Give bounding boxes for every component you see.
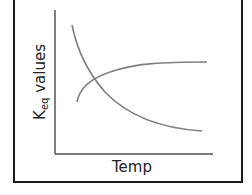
- y-axis-label: Keq values: [31, 44, 50, 120]
- decreasing-curve: [72, 25, 202, 131]
- x-axis-label: Temp: [0, 158, 252, 176]
